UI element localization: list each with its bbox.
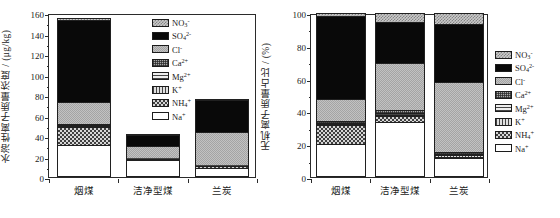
x-tick [188, 179, 189, 183]
legend-item-SO4: SO42- [495, 61, 534, 74]
legend-swatch-Ca-icon [495, 91, 512, 99]
legend-label-Ca: Ca2+ [515, 90, 531, 100]
y-tick-label: 0 [40, 174, 45, 184]
x-axis-label-0: 烟煤 [74, 183, 94, 197]
y-tick-label: 80 [35, 92, 44, 102]
bar-segment-K [434, 155, 484, 156]
y-tick [45, 56, 49, 57]
y-tick-minor [309, 130, 312, 131]
legend-item-NO3: NO3- [495, 48, 534, 61]
bar-segment-Na [434, 158, 484, 177]
bar-segment-SO42 [375, 22, 425, 63]
bar-segment-NH4 [57, 127, 111, 145]
legend-swatch-Ca-icon [152, 59, 169, 67]
bar-segment-Cl [195, 132, 249, 165]
legend-swatch-Cl-icon [152, 45, 169, 53]
y-tick-label: 40 [35, 133, 44, 143]
y-tick [307, 15, 311, 16]
x-tick [118, 179, 119, 183]
y-tick [45, 97, 49, 98]
legend-item-Mg: Mg2+ [495, 102, 534, 115]
bar-segment-Ca2 [57, 124, 111, 126]
bar-segment-NH4 [434, 157, 484, 159]
y-axis-label-left: 水溶性离子质量浓度 / (μg/kg) [2, 14, 12, 178]
y-tick-minor [309, 31, 312, 32]
y-tick-minor [47, 169, 50, 170]
y-tick-minor [47, 87, 50, 88]
y-tick-minor [47, 66, 50, 67]
y-tick-label: 20 [297, 141, 306, 151]
y-tick [45, 118, 49, 119]
bar-segment-NH4 [375, 116, 425, 122]
bar-segment-NO3 [316, 13, 366, 16]
legend-item-SO4: SO42- [152, 29, 191, 42]
stacked-bar-left-2 [195, 13, 249, 177]
y-tick [45, 159, 49, 160]
x-tick [257, 179, 258, 183]
legend-label-Ca: Ca2+ [172, 58, 188, 68]
legend-label-Mg: Mg2+ [515, 104, 533, 114]
stacked-bar-left-0 [57, 13, 111, 177]
legend-label-NH4: NH4+ [172, 98, 191, 108]
legend-label-Na: Na+ [515, 144, 528, 154]
legend-item-Na: Na+ [495, 142, 534, 155]
legend-left: NO3-SO42-Cl-Ca2+Mg2+K+NH4+Na+ [152, 16, 191, 123]
bar-segment-Cl [434, 82, 484, 153]
legend-swatch-Mg-icon [495, 104, 512, 112]
bar-segment-NH4 [316, 125, 366, 144]
x-axis-label-1: 洁净型煤 [380, 183, 420, 197]
bar-segment-SO42 [126, 135, 180, 146]
y-tick-label: 0 [302, 174, 307, 184]
legend-label-K: K+ [515, 117, 525, 127]
y-tick [45, 77, 49, 78]
legend-label-NH4: NH4+ [515, 130, 534, 140]
legend-item-K: K+ [495, 115, 534, 128]
y-tick-label: 80 [297, 43, 306, 53]
legend-item-Na: Na+ [152, 110, 191, 123]
y-tick-minor [47, 46, 50, 47]
legend-item-Ca: Ca2+ [495, 88, 534, 101]
y-tick [307, 81, 311, 82]
panel-left: 水溶性离子质量浓度 / (μg/kg) 02040608010012014016… [0, 0, 280, 218]
y-tick [307, 48, 311, 49]
y-tick-label: 60 [35, 113, 44, 123]
bar-segment-SO42 [57, 20, 111, 102]
bar-segment-Na [195, 168, 249, 177]
bar-segment-Na [57, 145, 111, 177]
y-tick-minor [309, 163, 312, 164]
legend-right: NO3-SO42-Cl-Ca2+Mg2+K+NH4+Na+ [495, 48, 534, 155]
legend-item-Cl: Cl- [152, 43, 191, 56]
legend-swatch-SO4-icon [495, 64, 512, 72]
bar-segment-Na [316, 144, 366, 177]
bar-segment-SO42 [195, 100, 249, 132]
bar-segment-NO3 [375, 13, 425, 22]
bar-segment-NH4 [126, 159, 180, 160]
bar-segment-Cl [316, 99, 366, 121]
stacked-bar-right-0 [316, 13, 366, 177]
y-tick-label: 100 [31, 72, 45, 82]
x-axis-label-2: 兰炭 [449, 183, 469, 197]
legend-label-K: K+ [172, 85, 182, 95]
y-tick [45, 15, 49, 16]
legend-label-SO4: SO42- [172, 31, 191, 41]
bar-segment-NO3 [195, 99, 249, 100]
legend-label-Na: Na+ [172, 112, 185, 122]
legend-item-Mg: Mg2+ [152, 70, 191, 83]
legend-label-NO3: NO3- [172, 18, 189, 28]
legend-swatch-NO3-icon [495, 51, 512, 59]
plot-area-right: 020406080100烟煤洁净型煤兰炭 [310, 14, 488, 178]
x-tick [489, 179, 490, 183]
legend-item-Ca: Ca2+ [152, 56, 191, 69]
y-tick-label: 140 [31, 31, 45, 41]
x-axis-label-1: 洁净型煤 [133, 183, 173, 197]
legend-swatch-Mg-icon [152, 72, 169, 80]
legend-swatch-NH4-icon [152, 99, 169, 107]
bar-segment-Cl [57, 102, 111, 124]
bar-segment-Ca2 [434, 152, 484, 154]
y-tick-minor [309, 97, 312, 98]
legend-swatch-Cl-icon [495, 77, 512, 85]
figure-stacked-bar-charts: 水溶性离子质量浓度 / (μg/kg) 02040608010012014016… [0, 0, 560, 218]
bar-segment-NH4 [195, 166, 249, 168]
y-tick-label: 60 [297, 76, 306, 86]
x-tick [49, 179, 50, 183]
